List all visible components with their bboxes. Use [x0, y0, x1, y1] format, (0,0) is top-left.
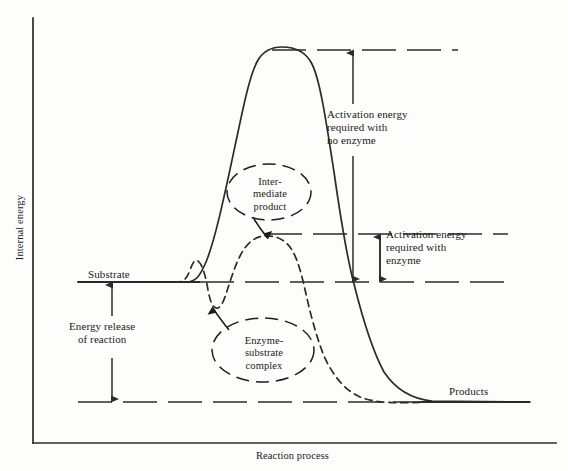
leader-arrow-intermediate-product: [254, 219, 266, 236]
enzyme-energy-diagram: Internal energy Reaction process Substra…: [0, 0, 568, 471]
energy-release-label: Energy release of reaction: [69, 320, 135, 346]
leader-arrow-enzyme-substrate-complex: [214, 310, 229, 330]
intermediate-product-label: Inter- mediate product: [240, 176, 300, 213]
enzyme-substrate-complex-label: Enzyme- substrate complex: [225, 335, 303, 372]
activation-energy-with-enzyme-label: Activation energy required with enzyme: [386, 228, 467, 267]
x-axis-label: Reaction process: [256, 450, 329, 462]
substrate-level-label: Substrate: [88, 268, 130, 281]
products-level-label: Products: [449, 385, 488, 398]
curve-no-enzyme: [78, 47, 530, 402]
y-axis-label: Internal energy: [14, 195, 26, 260]
activation-energy-no-enzyme-label: Activation energy required with no enzym…: [327, 108, 408, 147]
